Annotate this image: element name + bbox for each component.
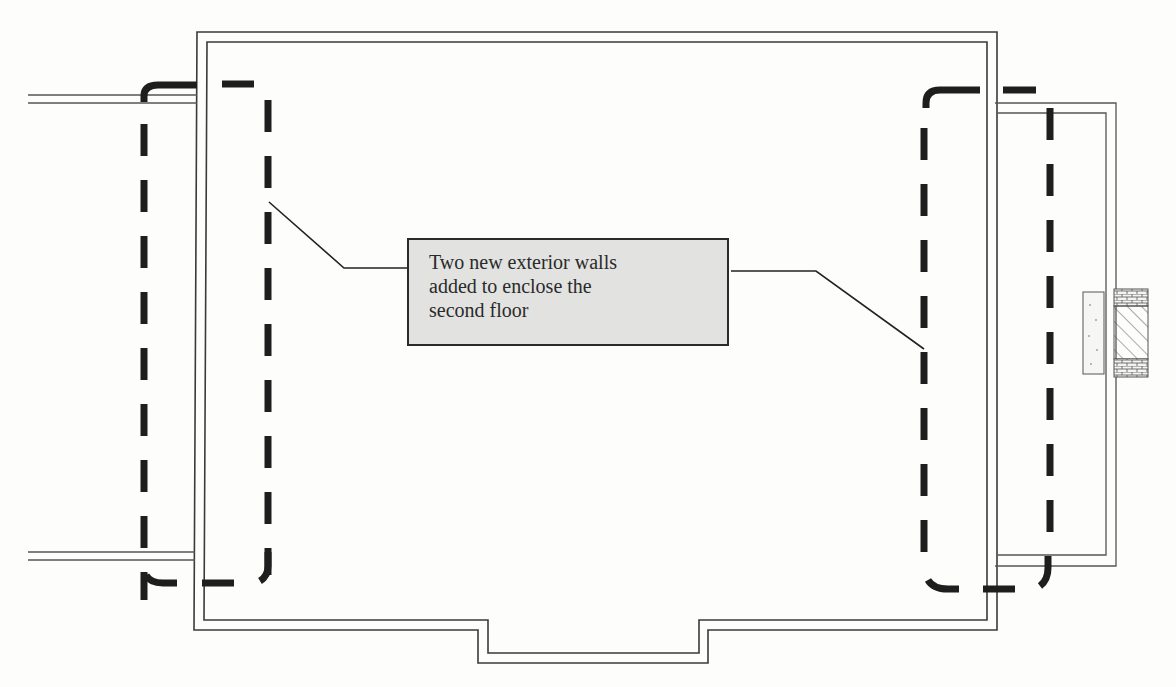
main-house-walls xyxy=(194,32,997,663)
callout-line-2: added to enclose the xyxy=(429,274,713,298)
left-adjoining-walls xyxy=(28,95,197,560)
callout-line-3: second floor xyxy=(429,298,713,322)
callout-line-1: Two new exterior walls xyxy=(429,250,713,274)
chimney-icon xyxy=(1083,289,1148,377)
callout-box: Two new exterior walls added to enclose … xyxy=(407,238,729,346)
